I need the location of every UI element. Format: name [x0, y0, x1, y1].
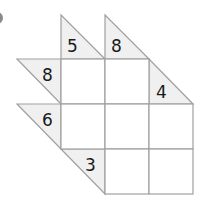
clue-across-row3: 3	[61, 149, 105, 194]
cell-r3-c2[interactable]	[105, 149, 149, 194]
clue-value: 8	[42, 65, 53, 85]
clue-across-row1: 8	[17, 59, 61, 104]
cell-r2-c2[interactable]	[105, 104, 149, 149]
clue-value: 3	[85, 155, 96, 175]
clue-down-col1: 5	[61, 15, 105, 59]
clue-value: 6	[42, 110, 53, 130]
clue-value: 4	[156, 82, 167, 102]
clue-value: 5	[67, 36, 78, 56]
clue-down-col3: 4	[149, 59, 193, 104]
cell-r1-c1[interactable]	[61, 59, 105, 104]
kakuro-board: 5 8 8 4 6 3	[0, 0, 205, 199]
entry-cells	[61, 59, 193, 194]
cell-r3-c3[interactable]	[149, 149, 193, 194]
clue-across-row2: 6	[17, 104, 61, 149]
cell-r2-c3[interactable]	[149, 104, 193, 149]
cell-r2-c1[interactable]	[61, 104, 105, 149]
clue-triangle	[61, 149, 105, 194]
cell-r1-c2[interactable]	[105, 59, 149, 104]
clue-triangle	[17, 104, 61, 149]
clue-triangle	[17, 59, 61, 104]
clue-down-col2: 8	[105, 15, 149, 59]
clue-value: 8	[111, 36, 122, 56]
